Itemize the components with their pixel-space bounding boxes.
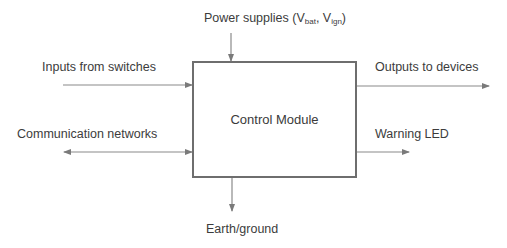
vign-subscript: ign [331,17,342,26]
vbat-subscript: bat [305,17,316,26]
power-supplies-label: Power supplies (Vbat, Vign) [204,11,346,26]
inputs-label: Inputs from switches [42,60,156,74]
warning-led-label: Warning LED [375,127,449,141]
control-module-label: Control Module [193,62,356,177]
outputs-label: Outputs to devices [375,60,479,74]
power-label-mid: , V [316,11,331,25]
power-label-suffix: ) [342,11,346,25]
communication-label: Communication networks [17,127,157,141]
earth-ground-label: Earth/ground [206,222,278,236]
power-label-text: Power supplies (V [204,11,305,25]
